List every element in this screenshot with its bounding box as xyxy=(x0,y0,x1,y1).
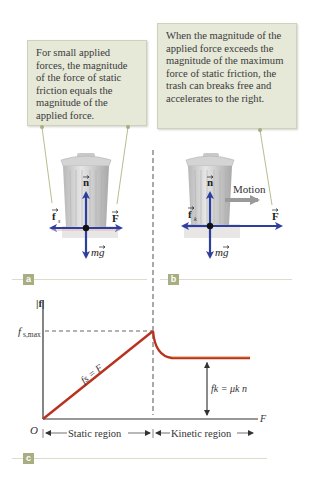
friction-graph xyxy=(43,300,258,438)
panel-label-b: b xyxy=(168,274,179,285)
panel-c-rule xyxy=(12,458,267,459)
panel-label-c: c xyxy=(23,453,34,464)
panel-label-a: a xyxy=(23,274,34,285)
x-axis-label: F xyxy=(259,413,267,424)
friction-diagram: n F f s mg Motion n F f k mg xyxy=(0,0,309,483)
panel-b-rule xyxy=(160,279,292,280)
force-vectors-a xyxy=(51,193,121,257)
applied-force-label-b: F xyxy=(272,210,279,222)
applied-force-label-a: F xyxy=(112,212,119,224)
static-friction-subscript-a: s xyxy=(58,218,61,224)
static-region-label: Static region xyxy=(68,428,122,439)
kinetic-friction-equation: fk = μk n xyxy=(211,383,247,394)
static-friction-label-a: f xyxy=(52,210,56,222)
motion-label: Motion xyxy=(233,183,266,195)
kinetic-region-label: Kinetic region xyxy=(171,428,232,439)
kinetic-friction-label-b: f xyxy=(188,208,192,220)
kinetic-friction-subscript-b: k xyxy=(194,216,197,222)
trash-can-a xyxy=(61,153,118,238)
weight-label-a: mg xyxy=(91,246,105,258)
fs-max-subscript: s,max xyxy=(23,330,41,339)
origin-label: O xyxy=(30,424,38,436)
y-axis-label: |f| xyxy=(36,297,45,309)
weight-label-b: mg xyxy=(215,246,229,258)
